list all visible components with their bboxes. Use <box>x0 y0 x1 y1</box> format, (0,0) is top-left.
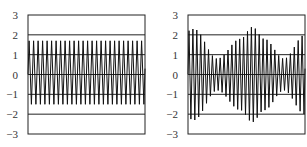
y-tick-label: 1 <box>173 49 179 61</box>
y-tick-label: −2 <box>6 108 18 120</box>
y-tick-label: −1 <box>166 88 178 100</box>
y-tick-label: 2 <box>173 29 179 41</box>
y-tick-label: 3 <box>13 9 19 21</box>
chart-figure: 3210−1−2−3 3210−1−2−3 <box>0 0 307 147</box>
signal-line <box>188 27 305 122</box>
y-tick-label: −3 <box>6 128 18 140</box>
y-tick-label: −1 <box>6 88 18 100</box>
y-tick-label: −3 <box>166 128 178 140</box>
left-panel: 3210−1−2−3 <box>6 9 145 140</box>
right-panel: 3210−1−2−3 <box>166 9 305 140</box>
y-tick-label: 2 <box>13 29 19 41</box>
y-tick-label: 0 <box>173 69 179 81</box>
y-tick-label: 3 <box>173 9 179 21</box>
y-tick-label: 0 <box>13 69 19 81</box>
y-tick-label: −2 <box>166 108 178 120</box>
y-tick-label: 1 <box>13 49 19 61</box>
